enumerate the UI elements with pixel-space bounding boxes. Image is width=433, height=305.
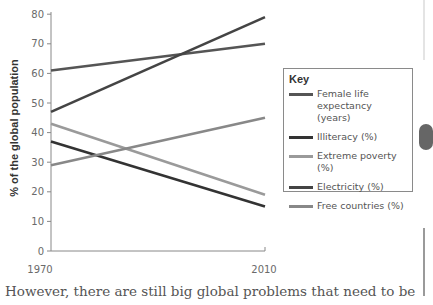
- legend-label: Extreme poverty (%): [317, 150, 408, 174]
- series-lines: [51, 17, 265, 206]
- y-tick-label: 60: [31, 68, 44, 79]
- legend-swatch-icon: [289, 205, 313, 208]
- legend-swatch-icon: [289, 93, 313, 96]
- x-tick-2010: 2010: [251, 264, 276, 275]
- legend-label: Female life expectancy (years): [317, 88, 407, 124]
- y-axis-ticks: 01020304050607080: [31, 9, 51, 257]
- x-tick-1970: 1970: [27, 264, 52, 275]
- legend-swatch-icon: [289, 186, 313, 189]
- page-edge-line: [423, 0, 425, 60]
- y-axis-label: % of the global population: [8, 59, 20, 197]
- page-margin-rule: [423, 228, 425, 296]
- legend-label: Electricity (%): [317, 181, 384, 193]
- page-tab-marker-icon: [419, 124, 433, 150]
- legend-label: Illiteracy (%): [317, 131, 377, 143]
- legend-swatch-icon: [289, 136, 313, 139]
- legend-item-illiteracy: Illiteracy (%): [289, 131, 408, 143]
- legend-item-extreme-poverty: Extreme poverty (%): [289, 150, 408, 174]
- legend: Key Female life expectancy (years) Illit…: [283, 68, 413, 192]
- y-tick-label: 50: [31, 98, 44, 109]
- series-line: [51, 44, 265, 71]
- legend-label: Free countries (%): [317, 200, 404, 212]
- legend-item-female-life: Female life expectancy (years): [289, 88, 408, 124]
- body-text: However, there are still big global prob…: [5, 283, 415, 299]
- legend-item-electricity: Electricity (%): [289, 181, 408, 193]
- y-tick-label: 10: [31, 216, 44, 227]
- legend-swatch-icon: [289, 155, 313, 158]
- legend-item-free-countries: Free countries (%): [289, 200, 408, 212]
- y-tick-label: 70: [31, 38, 44, 49]
- y-tick-label: 20: [31, 186, 44, 197]
- y-tick-label: 0: [38, 246, 44, 257]
- y-tick-label: 30: [31, 157, 44, 168]
- y-tick-label: 40: [31, 127, 44, 138]
- y-tick-label: 80: [31, 9, 44, 20]
- series-line: [51, 17, 265, 112]
- legend-title: Key: [289, 73, 408, 85]
- series-line: [51, 141, 265, 206]
